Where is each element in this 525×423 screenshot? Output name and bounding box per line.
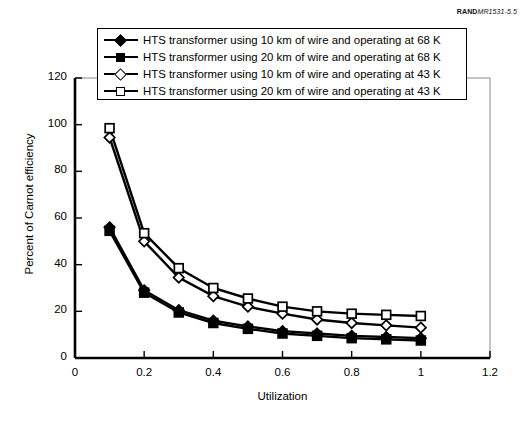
x-tick-label: 0.6 (263, 366, 303, 378)
data-point (416, 336, 425, 345)
data-point (140, 229, 149, 238)
data-point (382, 310, 391, 319)
y-tick-label: 20 (33, 303, 67, 315)
x-axis-label: Utilization (75, 390, 490, 402)
data-point (346, 318, 356, 328)
x-tick-label: 1.2 (470, 366, 510, 378)
data-point (313, 307, 322, 316)
y-axis-label: Percent of Carnot efficiency (23, 99, 35, 309)
legend-item-label: HTS transformer using 10 km of wire and … (138, 33, 441, 48)
y-tick-label: 80 (33, 163, 67, 175)
legend-marker-filled-diamond-icon (104, 33, 138, 47)
legend-item: HTS transformer using 20 km of wire and … (104, 83, 460, 99)
chart-figure: RANDMR1531-5.5 HTS transformer using 10 … (0, 0, 525, 423)
legend-marker-filled-square-icon (104, 50, 138, 64)
data-point (105, 124, 114, 133)
legend-item: HTS transformer using 10 km of wire and … (104, 32, 460, 48)
data-point (416, 322, 426, 332)
legend-item: HTS transformer using 10 km of wire and … (104, 66, 460, 82)
data-point (347, 309, 356, 318)
y-tick-label: 0 (33, 350, 67, 362)
legend-item-label: HTS transformer using 10 km of wire and … (138, 67, 441, 82)
x-tick-label: 0 (55, 366, 95, 378)
y-tick-label: 120 (33, 70, 67, 82)
y-tick-label: 60 (33, 210, 67, 222)
legend-item-label: HTS transformer using 20 km of wire and … (138, 50, 441, 65)
y-tick-label: 40 (33, 257, 67, 269)
data-point (174, 308, 183, 317)
data-point (209, 284, 218, 293)
data-point (381, 320, 391, 330)
x-tick-label: 1 (401, 366, 441, 378)
data-point (382, 335, 391, 344)
chart-legend: HTS transformer using 10 km of wire and … (97, 28, 467, 100)
x-tick-label: 0.8 (332, 366, 372, 378)
legend-marker-open-square-icon (104, 84, 138, 98)
x-tick-label: 0.4 (193, 366, 233, 378)
data-point (278, 329, 287, 338)
data-point (105, 226, 114, 235)
data-point (278, 302, 287, 311)
legend-marker-open-diamond-icon (104, 67, 138, 81)
data-point (174, 264, 183, 273)
legend-item-label: HTS transformer using 20 km of wire and … (138, 84, 441, 99)
data-point (140, 288, 149, 297)
data-point (416, 312, 425, 321)
x-tick-label: 0.2 (124, 366, 164, 378)
data-point (313, 331, 322, 340)
data-point (347, 334, 356, 343)
data-point (209, 319, 218, 328)
legend-item: HTS transformer using 20 km of wire and … (104, 49, 460, 65)
data-point (244, 324, 253, 333)
data-point (244, 294, 253, 303)
y-tick-label: 100 (33, 117, 67, 129)
